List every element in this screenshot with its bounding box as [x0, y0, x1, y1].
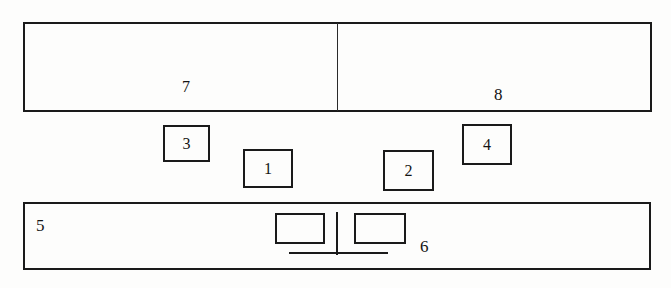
part-6-right-box	[354, 213, 406, 244]
part-4-label: 4	[464, 126, 510, 163]
part-6-label: 6	[420, 238, 429, 255]
technical-diagram: 7 8 3 1 2 4 5 6	[0, 0, 671, 288]
top-bar-divider	[337, 23, 338, 111]
part-2-label: 2	[385, 152, 432, 189]
part-6-base-line	[289, 252, 388, 254]
part-3-block: 3	[163, 125, 210, 162]
part-4-block: 4	[462, 124, 512, 165]
part-5-label: 5	[36, 217, 45, 234]
part-6-left-box	[275, 213, 325, 244]
part-8-label: 8	[494, 86, 503, 103]
part-1-block: 1	[243, 149, 293, 188]
part-1-label: 1	[245, 151, 291, 186]
part-6-vertical-stem	[336, 212, 338, 255]
part-2-block: 2	[383, 150, 434, 191]
part-3-label: 3	[165, 127, 208, 160]
